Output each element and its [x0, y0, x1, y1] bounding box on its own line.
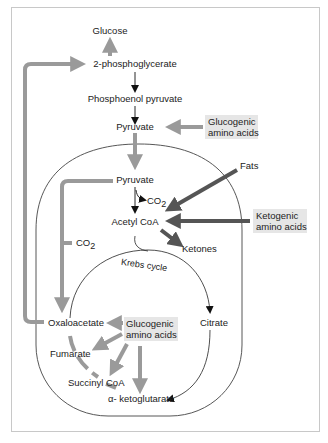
label-phosphoenol-pyruvate: Phosphoenol pyruvate — [88, 93, 183, 104]
label-glucogenic-top-2: amino acids — [208, 127, 259, 138]
label-ketogenic-2: amino acids — [256, 221, 307, 232]
label-glucogenic-bottom-2: amino acids — [126, 329, 177, 340]
label-pyruvate-cytosol: Pyruvate — [116, 121, 154, 132]
label-succinyl-coa: Succinyl CoA — [68, 377, 125, 388]
label-2-phosphoglycerate: 2-phosphoglycerate — [93, 58, 176, 69]
label-acetyl-coa: Acetyl CoA — [112, 216, 160, 227]
label-citrate: Citrate — [200, 317, 228, 328]
pathway-diagram: Glucose 2-phosphoglycerate Phosphoenol p… — [0, 0, 328, 443]
label-ketones: Ketones — [182, 243, 217, 254]
label-glucogenic-top-1: Glucogenic — [208, 116, 256, 127]
label-glucogenic-bottom-1: Glucogenic — [126, 318, 174, 329]
label-fumarate: Fumarate — [50, 348, 91, 359]
label-pyruvate-mito: Pyruvate — [116, 174, 154, 185]
label-oxaloacetate: Oxaloacetate — [48, 317, 104, 328]
label-fats: Fats — [240, 160, 259, 171]
label-alpha-ketoglutarate: α- ketoglutarate — [108, 393, 174, 404]
label-ketogenic-1: Ketogenic — [256, 210, 299, 221]
label-glucose: Glucose — [93, 25, 128, 36]
